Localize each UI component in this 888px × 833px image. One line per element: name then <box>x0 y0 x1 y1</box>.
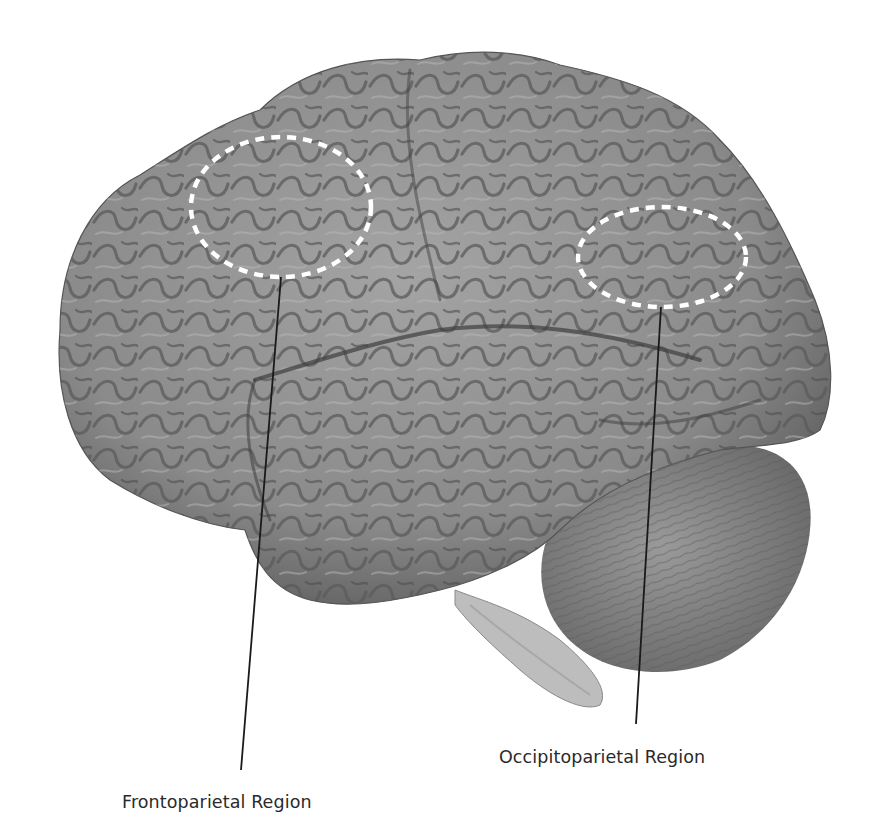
brain-diagram <box>0 0 888 833</box>
occipitoparietal-region-label: Occipitoparietal Region <box>499 747 705 767</box>
frontoparietal-region-label: Frontoparietal Region <box>122 792 312 812</box>
